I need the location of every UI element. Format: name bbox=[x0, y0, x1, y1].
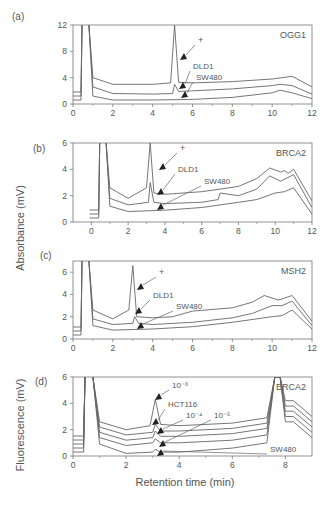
annotation-label: SW480 bbox=[270, 445, 297, 454]
y-tick-label: 0 bbox=[62, 99, 67, 109]
panel-label: (b) bbox=[33, 143, 45, 154]
annotation-label: + bbox=[198, 35, 203, 45]
arrow-icon bbox=[157, 203, 164, 210]
x-tick-label: 8 bbox=[283, 460, 288, 470]
x-tick-label: 10 bbox=[267, 108, 277, 118]
annotation-label: DLD1 bbox=[193, 62, 214, 71]
annotation-label: 10⁻³ bbox=[172, 381, 188, 390]
y-tick-label: 0 bbox=[62, 334, 67, 344]
arrow-icon bbox=[179, 82, 186, 89]
arrow-icon bbox=[137, 283, 144, 290]
x-tick-label: 0 bbox=[71, 460, 76, 470]
x-tick-label: 12 bbox=[307, 226, 317, 236]
panel-b: 0246810120246(b)BRCA2+DLD1SW480 bbox=[33, 138, 317, 236]
y-tick-label: 6 bbox=[62, 267, 67, 277]
x-tick-label: 6 bbox=[190, 108, 195, 118]
x-tick-label: 12 bbox=[307, 343, 317, 353]
x-tick-label: 8 bbox=[230, 343, 235, 353]
trace- bbox=[73, 25, 312, 92]
x-tick-label: 4 bbox=[163, 226, 168, 236]
x-tick-label: 2 bbox=[126, 226, 131, 236]
panel-c: 0246810120246(c)MSH2+DLD1SW480 bbox=[40, 250, 317, 353]
panel-d: 024680246(d)BRCA210⁻³HCT11610⁻⁴10⁻⁵SW480 bbox=[35, 372, 312, 470]
x-tick-label: 6 bbox=[230, 460, 235, 470]
arrow-icon bbox=[180, 53, 187, 60]
x-tick-label: 8 bbox=[230, 108, 235, 118]
y-tick-label: 0 bbox=[62, 451, 67, 461]
annotation-label: HCT116 bbox=[168, 400, 198, 409]
annotation-label: DLD1 bbox=[178, 165, 199, 174]
y-tick-label: 4 bbox=[62, 398, 67, 408]
annotation-label: + bbox=[180, 143, 185, 153]
panel-label: (c) bbox=[40, 250, 52, 261]
annotation-label: 10⁻⁵ bbox=[214, 411, 230, 420]
x-tick-label: 4 bbox=[150, 108, 155, 118]
y-tick-label: 0 bbox=[62, 217, 67, 227]
x-tick-label: 2 bbox=[110, 108, 115, 118]
x-tick-label: 10 bbox=[267, 343, 277, 353]
trace-DLD1 bbox=[73, 261, 312, 331]
y-tick-label: 8 bbox=[62, 46, 67, 56]
trace-DLD1 bbox=[73, 25, 312, 96]
y-tick-label: 4 bbox=[62, 164, 67, 174]
panel-a: 02468101204812(a)OGG1+DLD1SW480 bbox=[12, 11, 317, 118]
y-tick-label: 6 bbox=[62, 372, 67, 382]
annotation-label: 10⁻⁴ bbox=[186, 411, 203, 420]
ylabel-absorbance: Absorbance (mV) bbox=[14, 185, 26, 271]
x-tick-label: 4 bbox=[150, 343, 155, 353]
annotation-label: SW480 bbox=[176, 302, 203, 311]
x-tick-label: 6 bbox=[199, 226, 204, 236]
arrow-icon bbox=[159, 163, 166, 170]
y-tick-label: 2 bbox=[62, 425, 67, 435]
x-tick-label: 4 bbox=[177, 460, 182, 470]
arrow-icon bbox=[159, 440, 166, 447]
plot-frame bbox=[73, 261, 312, 339]
panel-title: OGG1 bbox=[280, 30, 306, 40]
arrow-icon bbox=[181, 91, 188, 98]
annotation-label: + bbox=[159, 267, 164, 277]
x-tick-label: 6 bbox=[190, 343, 195, 353]
annotation-label: SW480 bbox=[196, 73, 223, 82]
x-tick-label: 8 bbox=[236, 226, 241, 236]
annotation-label: SW480 bbox=[204, 177, 231, 186]
y-tick-label: 12 bbox=[58, 20, 68, 30]
panel-label: (d) bbox=[35, 376, 47, 387]
ylabel-fluorescence: Fluorescence (mV) bbox=[14, 379, 26, 472]
y-tick-label: 6 bbox=[62, 138, 67, 148]
chromatogram-figure: 02468101204812(a)OGG1+DLD1SW480024681012… bbox=[0, 0, 335, 511]
arrow-icon bbox=[155, 393, 162, 400]
x-tick-label: 12 bbox=[307, 108, 317, 118]
xlabel: Retention time (min) bbox=[135, 476, 234, 488]
x-tick-label: 0 bbox=[71, 343, 76, 353]
x-tick-label: 2 bbox=[124, 460, 129, 470]
x-tick-label: 2 bbox=[110, 343, 115, 353]
panel-label: (a) bbox=[12, 11, 24, 22]
panel-title: MSH2 bbox=[281, 266, 306, 276]
arrow-icon bbox=[152, 418, 159, 425]
y-tick-label: 2 bbox=[62, 191, 67, 201]
x-tick-label: 0 bbox=[89, 226, 94, 236]
y-tick-label: 4 bbox=[62, 73, 67, 83]
x-tick-label: 10 bbox=[270, 226, 280, 236]
trace-SW480 bbox=[73, 261, 312, 335]
arrow-icon bbox=[157, 188, 164, 195]
x-tick-label: 0 bbox=[71, 108, 76, 118]
panel-title: BRCA2 bbox=[276, 148, 306, 158]
annotation-label: DLD1 bbox=[153, 291, 174, 300]
trace- bbox=[73, 261, 312, 327]
y-tick-label: 2 bbox=[62, 312, 67, 322]
y-tick-label: 4 bbox=[62, 289, 67, 299]
